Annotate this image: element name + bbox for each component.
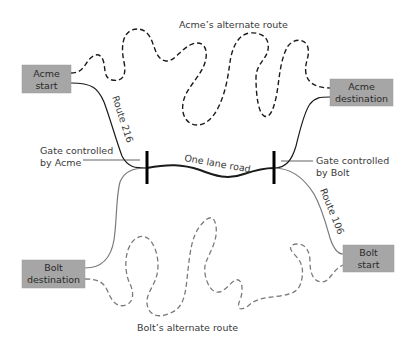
acme-destination-line2: destination	[335, 93, 388, 104]
bolt-start-line2: start	[357, 259, 379, 270]
node-acme-destination: Acme destination	[330, 79, 393, 106]
node-bolt-destination: Bolt destination	[22, 260, 85, 288]
route-216-label: Route 216	[110, 94, 136, 144]
bolt-route-to-destination	[85, 168, 147, 268]
node-bolt-start: Bolt start	[343, 245, 394, 272]
route-106-label: Route 106	[318, 187, 346, 236]
gate-bolt-label-line2: by Bolt	[316, 167, 350, 178]
node-acme-start: Acme start	[22, 65, 71, 93]
acme-start-line1: Acme	[33, 68, 60, 79]
bolt-destination-line2: destination	[27, 274, 80, 285]
acme-alternate-route-label: Acme’s alternate route	[179, 19, 288, 30]
bolt-alternate-route-label: Bolt’s alternate route	[137, 322, 238, 333]
deadlock-road-diagram: Acme start Acme destination Bolt destina…	[0, 0, 415, 344]
gate-bolt-label-line1: Gate controlled	[316, 155, 389, 166]
bolt-destination-line1: Bolt	[44, 262, 63, 273]
gate-acme-label-line1: Gate controlled	[40, 145, 113, 156]
acme-alternate-route	[71, 29, 330, 125]
one-lane-road-label: One lane road	[184, 152, 252, 174]
gate-acme-label-line2: by Acme	[40, 157, 81, 168]
acme-destination-line1: Acme	[348, 81, 375, 92]
acme-start-line2: start	[35, 80, 57, 91]
bolt-start-line1: Bolt	[359, 247, 378, 258]
bolt-alternate-route	[85, 218, 343, 316]
